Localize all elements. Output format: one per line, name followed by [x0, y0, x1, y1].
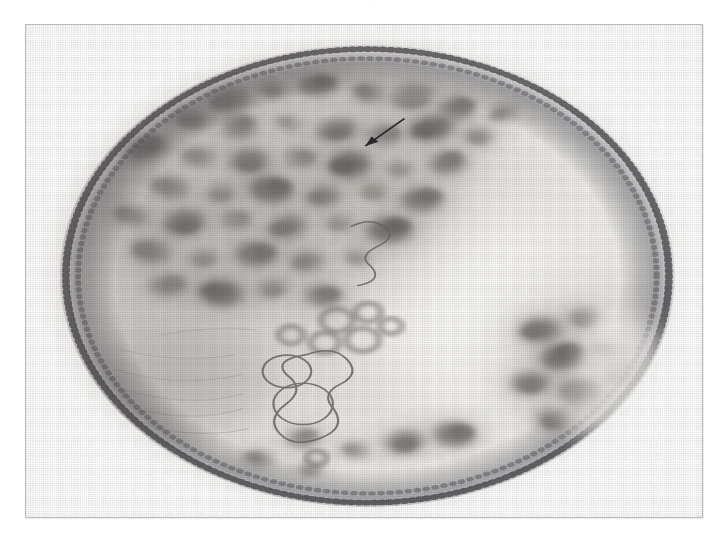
micrograph-plate-frame: [25, 24, 703, 518]
cell-nucleus-electron-micrograph: [26, 25, 702, 517]
running-caption: · · · · ·: [0, 0, 725, 7]
document-page: · · · · ·: [0, 0, 725, 539]
